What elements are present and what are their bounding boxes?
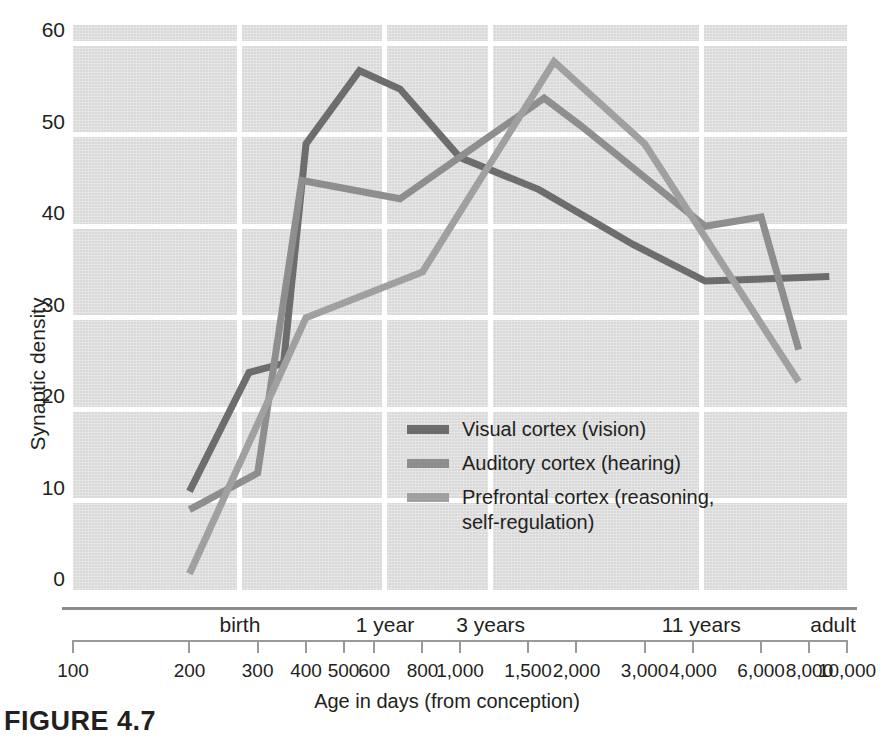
x-axis-stage-label: birth [220, 613, 261, 636]
ruler-tick-label: 500 [328, 660, 360, 681]
legend-label-auditory-cortex: Auditory cortex (hearing) [462, 451, 681, 476]
y-axis-tick-label: 40 [15, 202, 65, 223]
ruler-tick [644, 640, 646, 653]
y-axis-tick-label: 10 [15, 477, 65, 498]
ruler-tick [188, 640, 190, 653]
ruler-tick-label: 6,000 [737, 660, 785, 681]
ruler-tick [575, 640, 577, 653]
legend-item[interactable]: Visual cortex (vision) [407, 417, 714, 442]
y-axis-tick-label: 60 [15, 19, 65, 40]
plot-area: Visual cortex (vision) Auditory cortex (… [73, 25, 847, 592]
ruler-tick-label: 1,500 [504, 660, 552, 681]
ruler-tick-label: 3,000 [621, 660, 669, 681]
ruler-tick-label: 400 [290, 660, 322, 681]
ruler-tick [257, 640, 259, 653]
ruler-tick [373, 640, 375, 653]
legend-item[interactable]: Auditory cortex (hearing) [407, 451, 714, 476]
ruler-tick-label: 300 [242, 660, 274, 681]
y-axis-tick-label: 20 [15, 385, 65, 406]
legend-label-prefrontal-cortex: Prefrontal cortex (reasoning, self-regul… [462, 485, 714, 535]
ruler-tick-label: 200 [174, 660, 206, 681]
ruler-tick [760, 640, 762, 653]
x-axis-stage-label: 1 year [356, 613, 414, 636]
ruler-tick-label: 2,000 [553, 660, 601, 681]
legend-swatch-prefrontal-cortex [407, 493, 449, 502]
legend-item[interactable]: Prefrontal cortex (reasoning, self-regul… [407, 485, 714, 535]
ruler-tick [305, 640, 307, 653]
legend-label-visual-cortex: Visual cortex (vision) [462, 417, 646, 442]
ruler-tick [846, 640, 848, 653]
ruler-tick [692, 640, 694, 653]
ruler-tick-label: 600 [358, 660, 390, 681]
x-axis-stage-label: adult [810, 613, 856, 636]
x-axis-stage-label: 3 years [456, 613, 525, 636]
legend-swatch-visual-cortex [407, 425, 449, 434]
legend: Visual cortex (vision) Auditory cortex (… [407, 417, 714, 544]
ruler-tick [343, 640, 345, 653]
y-axis-tick-label: 50 [15, 111, 65, 132]
ruler-tick [72, 640, 74, 653]
ruler-tick-label: 10,000 [818, 660, 876, 681]
y-axis-tick-label: 0 [15, 568, 65, 589]
ruler-tick-label: 4,000 [669, 660, 717, 681]
x-axis-log-ruler [0, 640, 894, 662]
ruler-tick [459, 640, 461, 653]
x-axis-stage-label: 11 years [662, 613, 741, 636]
ruler-tick [421, 640, 423, 653]
ruler-tick-label: 1,000 [436, 660, 484, 681]
y-axis-tick-label: 30 [15, 294, 65, 315]
ruler-tick-label: 800 [407, 660, 439, 681]
ruler-tick-label: 100 [57, 660, 89, 681]
figure-root: Synaptic density 0102030405060 Visual co… [0, 0, 894, 739]
x-axis-line [62, 607, 857, 610]
legend-swatch-auditory-cortex [407, 459, 449, 468]
ruler-tick [808, 640, 810, 653]
figure-caption: FIGURE 4.7 [4, 706, 156, 739]
ruler-tick [527, 640, 529, 653]
